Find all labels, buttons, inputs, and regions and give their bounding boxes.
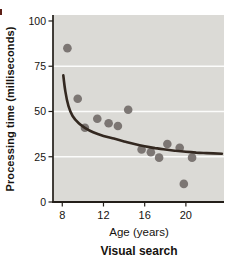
data-point <box>163 140 172 149</box>
data-point <box>180 180 189 189</box>
y-tick-label: 100 <box>28 15 46 27</box>
data-point <box>93 114 102 123</box>
chart-caption: Visual search <box>100 244 177 258</box>
data-point <box>114 122 123 131</box>
visual-search-figure: Processing time (milliseconds) 025507510… <box>0 0 227 266</box>
y-tick-label: 50 <box>34 105 46 117</box>
x-tick-label: 12 <box>97 209 109 221</box>
x-axis-title: Age (years) <box>109 226 168 238</box>
x-tick-label: 20 <box>180 209 192 221</box>
data-point <box>63 44 72 53</box>
x-tick-label: 8 <box>59 209 65 221</box>
data-point <box>155 153 164 162</box>
y-tick-label: 75 <box>34 60 46 72</box>
y-tick-label: 25 <box>34 151 46 163</box>
data-point <box>188 153 197 162</box>
data-point <box>73 95 82 104</box>
data-point <box>104 119 113 128</box>
data-point <box>124 105 133 114</box>
plot-area <box>53 15 224 202</box>
x-tick-label: 16 <box>139 209 151 221</box>
y-tick-label: 0 <box>40 196 46 208</box>
